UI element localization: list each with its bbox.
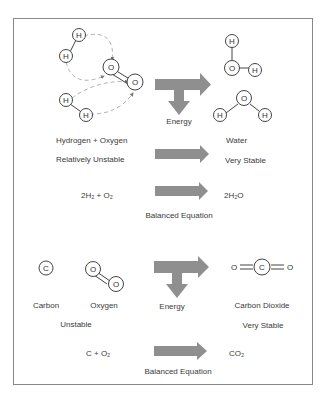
svg-text:H: H (217, 111, 223, 120)
reactant-label-1: Hydrogen + Oxygen (56, 136, 127, 146)
svg-text:H: H (229, 37, 235, 46)
oxygen-label: Oxygen (90, 301, 118, 311)
energy-t-arrow-1 (155, 73, 211, 115)
equation-arrow-1 (155, 182, 208, 200)
equation-right-1: 2H₂O (224, 191, 244, 201)
energy-label-1: Energy (166, 117, 191, 127)
svg-text:H: H (83, 111, 89, 120)
h2-molecule-bottom: H H (60, 94, 93, 122)
equation-left-1: 2H₂ + O₂ (81, 191, 113, 201)
svg-text:H: H (76, 31, 82, 40)
dashed-reaction-paths (66, 34, 133, 114)
svg-text:C: C (259, 263, 265, 272)
reactant-stability-1: Relatively Unstable (56, 155, 124, 165)
co2-molecule: O C O (231, 259, 293, 275)
product-label-1: Water (226, 136, 247, 146)
equation-arrow-2 (154, 342, 207, 360)
svg-text:H: H (262, 111, 268, 120)
svg-text:O: O (287, 263, 293, 272)
product-label-2: Carbon Dioxide (234, 301, 289, 311)
product-stability-2: Very Stable (243, 321, 284, 331)
svg-text:O: O (231, 263, 237, 272)
diagram-graphics: H H O O H H H O H O (0, 0, 327, 394)
energy-label-2: Energy (159, 302, 184, 312)
equation-right-2: CO₂ (229, 349, 244, 359)
svg-text:O: O (108, 63, 114, 72)
water-molecule-1: H O H (225, 35, 262, 77)
reaction-arrow-1 (155, 145, 209, 163)
svg-text:H: H (63, 96, 69, 105)
product-stability-1: Very Stable (225, 156, 266, 166)
svg-text:O: O (241, 94, 247, 103)
o2-molecule-carbon-section: O O (86, 262, 124, 292)
carbon-label: Carbon (33, 301, 59, 311)
water-molecule-2: O H H (214, 91, 272, 122)
balanced-equation-caption-2: Balanced Equation (144, 367, 211, 377)
svg-text:H: H (63, 52, 69, 61)
svg-text:O: O (90, 265, 96, 274)
svg-text:H: H (252, 66, 258, 75)
reactant-stability-2: Unstable (60, 320, 92, 330)
svg-text:C: C (43, 264, 49, 273)
equation-left-2: C + O₂ (86, 349, 110, 359)
balanced-equation-caption-1: Balanced Equation (145, 211, 212, 221)
svg-text:O: O (113, 280, 119, 289)
svg-text:O: O (132, 78, 138, 87)
h2-molecule-top: H H (60, 29, 86, 63)
energy-t-arrow-2 (154, 256, 209, 298)
o2-molecule: O O (103, 59, 143, 90)
svg-text:O: O (229, 64, 235, 73)
carbon-atom: C (39, 261, 53, 275)
